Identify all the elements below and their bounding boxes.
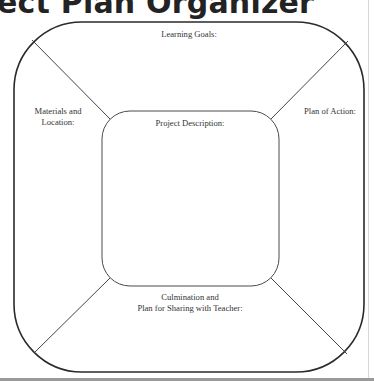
location-text: Location: [18, 117, 98, 128]
sharing-text: Plan for Sharing with Teacher: [120, 303, 260, 314]
diagonal-bottom-left [34, 278, 110, 353]
plan-of-action-label: Plan of Action: [290, 106, 370, 117]
learning-goals-label: Learning Goals: [139, 29, 239, 40]
project-description-text: Project Description: [156, 118, 225, 128]
materials-text: Materials and [18, 106, 98, 117]
diagonal-bottom-right [271, 278, 347, 354]
organizer-diagram [0, 0, 374, 381]
learning-goals-text: Learning Goals: [161, 29, 217, 39]
inner-box [102, 111, 279, 286]
page-edge [368, 0, 369, 378]
project-description-label: Project Description: [130, 118, 250, 129]
materials-location-label: Materials and Location: [18, 106, 98, 127]
culmination-label: Culmination and Plan for Sharing with Te… [120, 292, 260, 313]
plan-of-action-text: Plan of Action: [304, 106, 356, 116]
culmination-text: Culmination and [120, 292, 260, 303]
